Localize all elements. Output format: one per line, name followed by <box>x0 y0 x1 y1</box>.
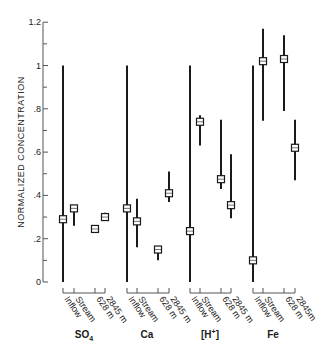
normalized-concentration-chart: 0.2.4.6.811.2 NORMALIZED CONCENTRATION I… <box>0 0 327 357</box>
y-tick-label: .6 <box>33 147 41 157</box>
y-tick-label: .4 <box>33 190 41 200</box>
y-axis: 0.2.4.6.811.2 <box>28 17 48 287</box>
chart-groups: InflowStream628 m2845 mSO4InflowStream62… <box>60 29 319 342</box>
group-label: SO4 <box>75 329 93 342</box>
group-ca: InflowStream628 m2845 mCa <box>124 66 194 341</box>
group-h: InflowStream628 m2845 m[H+] <box>187 66 256 341</box>
y-axis-label: NORMALIZED CONCENTRATION <box>16 76 26 227</box>
group-fe: InflowStream628 m2845mFe <box>250 29 319 340</box>
y-tick-label: 1 <box>36 61 41 71</box>
y-tick-label: .2 <box>33 234 41 244</box>
y-tick-label: .8 <box>33 104 41 114</box>
y-tick-label: 1.2 <box>28 17 41 27</box>
y-tick-label: 0 <box>36 277 41 287</box>
group-so4: InflowStream628 m2845 mSO4 <box>60 66 130 343</box>
group-label: Ca <box>141 329 154 340</box>
group-label: Fe <box>267 329 279 340</box>
group-label: [H+] <box>201 328 219 340</box>
